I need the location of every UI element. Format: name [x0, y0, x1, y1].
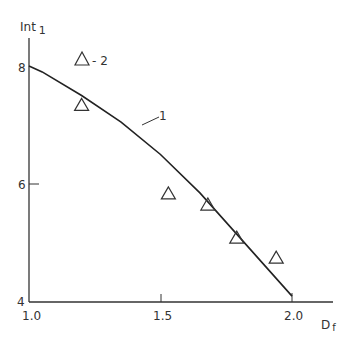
- curve-label-leader: [142, 117, 159, 125]
- y-tick-label: 4: [17, 295, 25, 309]
- legend-label: - 2: [92, 54, 108, 68]
- legend-triangle-icon: [75, 52, 89, 65]
- curve-label: 1: [159, 109, 167, 123]
- x-axis-label: Df: [321, 318, 336, 333]
- scatter-points: [75, 98, 284, 263]
- x-tick-label: 1.5: [153, 309, 172, 323]
- triangle-marker-icon: [269, 251, 283, 263]
- chart: 8 6 4 1.0 1.5 2.0 Int1 Df 1 - 2: [0, 0, 351, 342]
- y-tick-label: 8: [18, 61, 26, 75]
- triangle-marker-icon: [161, 187, 175, 199]
- y-tick-label: 6: [18, 178, 26, 192]
- triangle-marker-icon: [75, 98, 89, 110]
- curve-1: [29, 66, 292, 296]
- y-axis-label: Int1: [20, 20, 46, 37]
- triangle-marker-icon: [230, 231, 244, 243]
- x-tick-label: 1.0: [22, 309, 41, 323]
- x-tick-label: 2.0: [284, 309, 303, 323]
